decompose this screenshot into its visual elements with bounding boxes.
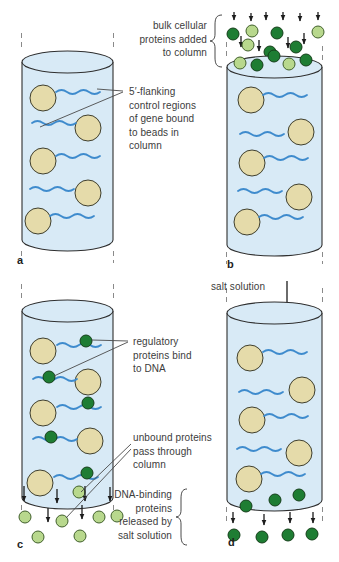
bead bbox=[75, 180, 101, 206]
column-top-opening bbox=[227, 302, 322, 324]
bead bbox=[25, 208, 51, 234]
panel-letter-c: c bbox=[17, 538, 23, 550]
bead bbox=[30, 85, 56, 111]
protein-light bbox=[19, 511, 31, 523]
protein-light bbox=[56, 515, 68, 527]
bead bbox=[77, 428, 103, 454]
label-dna-binding-released: DNA-binding proteins released by salt so… bbox=[92, 488, 172, 542]
bead bbox=[286, 184, 312, 210]
protein-light bbox=[242, 39, 254, 51]
bead bbox=[239, 407, 265, 433]
protein-light bbox=[32, 531, 44, 543]
bead bbox=[288, 119, 314, 145]
protein-dark-bound bbox=[45, 431, 57, 443]
bead bbox=[75, 115, 101, 141]
label-flanking-regions: 5′-flanking control regions of gene boun… bbox=[129, 85, 209, 153]
panel-letter-b: b bbox=[227, 258, 234, 270]
protein-dark bbox=[268, 50, 280, 62]
panel-b bbox=[210, 12, 324, 264]
panel-a bbox=[22, 33, 124, 263]
protein-dark bbox=[300, 54, 312, 66]
bead bbox=[75, 369, 101, 395]
label-regulatory-proteins: regulatory proteins bind to DNA bbox=[133, 335, 213, 376]
bead bbox=[30, 338, 56, 364]
protein-dark bbox=[251, 59, 263, 71]
bead bbox=[27, 470, 53, 496]
protein-dark bbox=[306, 528, 318, 540]
protein-light bbox=[74, 530, 86, 542]
bead bbox=[30, 400, 56, 426]
bead bbox=[239, 150, 265, 176]
protein-dark-bound bbox=[43, 371, 55, 383]
protein-light bbox=[73, 486, 85, 498]
protein-light bbox=[234, 57, 246, 69]
protein-dark bbox=[256, 531, 268, 543]
figure-dna-affinity-chromatography: bulk cellular proteins added to column 5… bbox=[0, 0, 339, 562]
protein-dark bbox=[282, 529, 294, 541]
protein-light bbox=[283, 58, 295, 70]
bead bbox=[30, 148, 56, 174]
curly-brace bbox=[210, 15, 222, 67]
bead bbox=[237, 345, 263, 371]
bead bbox=[286, 440, 312, 466]
bead bbox=[238, 87, 264, 113]
label-salt-solution: salt solution bbox=[211, 280, 281, 294]
protein-dark bbox=[269, 494, 281, 506]
label-unbound-proteins: unbound proteins pass through column bbox=[133, 431, 228, 472]
protein-dark-bound bbox=[81, 467, 93, 479]
protein-dark bbox=[290, 41, 302, 53]
protein-light bbox=[246, 25, 258, 37]
protein-dark bbox=[293, 489, 305, 501]
protein-dark-bound bbox=[80, 335, 92, 347]
protein-dark-bound bbox=[82, 397, 94, 409]
protein-dark bbox=[227, 28, 239, 40]
panel-letter-a: a bbox=[17, 254, 23, 266]
protein-dark bbox=[240, 500, 252, 512]
bead bbox=[236, 466, 262, 492]
panel-d bbox=[176, 281, 323, 545]
bead bbox=[234, 209, 260, 235]
bead bbox=[289, 377, 315, 403]
curly-brace bbox=[176, 489, 187, 545]
column-top-opening bbox=[22, 300, 113, 322]
protein-light bbox=[312, 26, 324, 38]
panel-letter-d: d bbox=[228, 536, 235, 548]
label-bulk-proteins: bulk cellular proteins added to column bbox=[93, 19, 207, 60]
protein-dark bbox=[271, 27, 283, 39]
